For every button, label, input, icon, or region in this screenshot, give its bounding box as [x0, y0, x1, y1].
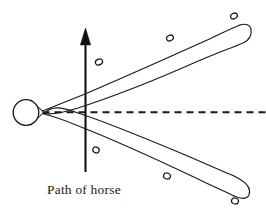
horse-head-circle [13, 100, 39, 126]
figure-container: Path of horse [0, 0, 266, 218]
ring-upper-inner-icon [94, 58, 103, 66]
ring-lower-middle-icon [163, 172, 172, 180]
path-arrow-head-icon [80, 28, 90, 45]
path-of-horse-label: Path of horse [47, 182, 121, 198]
ring-lower-inner-icon [92, 146, 100, 154]
ring-lower-outer-icon [231, 197, 240, 205]
upper-shaft [31, 24, 251, 114]
path-arrow [80, 28, 90, 172]
lower-shaft-tip-cap [234, 176, 250, 198]
upper-shaft-bottom-edge [44, 46, 236, 114]
upper-shaft-tip-cap [236, 24, 251, 46]
upper-shaft-top-edge [43, 25, 241, 111]
lower-shaft-bottom-edge [44, 108, 234, 176]
path-of-horse-diagram [0, 0, 266, 218]
ring-upper-middle-icon [166, 34, 175, 42]
ring-upper-outer-icon [230, 12, 239, 20]
